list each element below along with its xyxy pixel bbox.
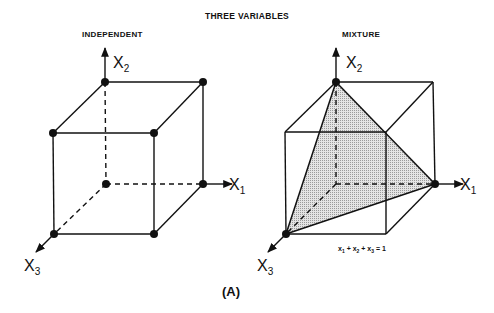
- mixture-x3-label: X3: [257, 257, 274, 277]
- mixture-x2-label: X2: [346, 54, 363, 74]
- mixture-constraint-equation: x1 + x2 + x3 = 1: [338, 245, 386, 254]
- independent-x2-label: X2: [113, 54, 130, 74]
- figure-caption: (A): [222, 284, 240, 299]
- independent-cube: [53, 82, 203, 234]
- mixture-x1-label: X1: [460, 176, 477, 196]
- independent-x1-label: X1: [229, 176, 246, 196]
- diagram-canvas: X2 X1 X3 X2 X1 X3 x1 + x2 + x3: [0, 0, 494, 313]
- independent-x3-label: X3: [24, 257, 41, 277]
